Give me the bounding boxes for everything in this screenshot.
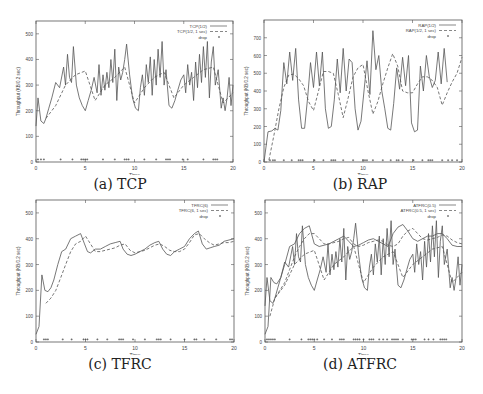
caption-atfrc: (d) ATFRC (240, 356, 480, 372)
series-line (265, 221, 462, 306)
y-axis-label: Throughput (KB/0.2 sec) (244, 66, 249, 116)
y-tick-label: 200 (253, 125, 261, 130)
y-tick-label: 500 (25, 211, 33, 216)
legend-label: ATFRC(0.5) (413, 203, 436, 208)
series-line (36, 42, 233, 127)
plot-frame (36, 200, 234, 342)
legend-label: drop (198, 35, 207, 40)
x-tick-label: 5 (84, 345, 87, 351)
legend-label: TFRC(6) (191, 203, 208, 208)
chart-panel-tfrc: 010020030040050005101520TimeThroughput (… (0, 180, 240, 394)
x-tick-label: 20 (459, 165, 465, 171)
x-tick-label: 15 (181, 165, 187, 171)
y-tick-label: 0 (30, 340, 33, 345)
y-tick-label: 300 (25, 83, 33, 88)
y-tick-label: 100 (25, 134, 33, 139)
series-line (269, 54, 462, 161)
y-tick-label: 100 (253, 142, 261, 147)
y-tick-label: 200 (25, 109, 33, 114)
x-tick-label: 10 (132, 345, 138, 351)
series-line (46, 234, 234, 304)
x-tick-label: 20 (231, 345, 237, 351)
x-axis-label: Time (129, 172, 140, 175)
caption-tfrc: (c) TFRC (0, 356, 240, 372)
x-tick-label: 0 (35, 165, 38, 171)
legend-label: RAP(1/2) (418, 23, 436, 28)
x-tick-label: 5 (312, 165, 315, 171)
legend-label: drop (427, 34, 436, 39)
y-tick-label: 200 (254, 288, 262, 293)
chart-panel-atfrc: 010020030040050005101520TimeThroughput (… (240, 180, 483, 394)
chart-panel-tcp: 010020030040050005101520TimeThroughput (… (0, 0, 240, 197)
series-line (264, 31, 447, 162)
legend-label: TCP(1/2) (190, 24, 208, 29)
x-tick-label: 15 (410, 165, 416, 171)
series-line (36, 231, 234, 334)
x-tick-label: 10 (132, 165, 138, 171)
legend-label: RAP(1/2, 1 sec) (406, 28, 437, 33)
chart-atfrc: 010020030040050005101520TimeThroughput (… (240, 180, 483, 355)
plot-frame (264, 20, 462, 162)
x-tick-label: 10 (361, 345, 367, 351)
legend-label: ATFRC(0.5, 1 sec) (401, 208, 437, 213)
y-tick-label: 500 (25, 32, 33, 37)
chart-tfrc: 010020030040050005101520TimeThroughput (… (0, 180, 240, 355)
plot-frame (265, 200, 462, 342)
chart-rap: 010020030040050060070005101520TimeThroug… (240, 0, 483, 175)
y-tick-label: 500 (254, 211, 262, 216)
x-tick-label: 0 (264, 345, 267, 351)
x-tick-label: 5 (313, 345, 316, 351)
y-tick-label: 300 (254, 263, 262, 268)
x-axis-label: Time (358, 352, 369, 355)
y-tick-label: 400 (25, 237, 33, 242)
y-tick-label: 0 (258, 160, 261, 165)
x-tick-label: 5 (84, 165, 87, 171)
y-tick-label: 0 (259, 340, 262, 345)
legend-label: drop (199, 214, 208, 219)
legend-label: drop (427, 214, 436, 219)
x-tick-label: 0 (263, 165, 266, 171)
x-tick-label: 10 (360, 165, 366, 171)
y-tick-label: 600 (253, 54, 261, 59)
y-tick-label: 400 (25, 57, 33, 62)
y-tick-label: 500 (253, 71, 261, 76)
chart-panel-rap: 010020030040050060070005101520TimeThroug… (240, 0, 483, 197)
y-tick-label: 100 (254, 314, 262, 319)
x-tick-label: 20 (459, 345, 465, 351)
x-axis-label: Time (130, 352, 141, 355)
x-tick-label: 15 (410, 345, 416, 351)
y-tick-label: 300 (25, 263, 33, 268)
y-tick-label: 100 (25, 314, 33, 319)
y-tick-label: 300 (253, 107, 261, 112)
y-tick-label: 700 (253, 36, 261, 41)
chart-tcp: 010020030040050005101520TimeThroughput (… (0, 0, 240, 175)
legend-label: TCP(1/2, 1 sec) (177, 29, 208, 34)
x-tick-label: 20 (230, 165, 236, 171)
series-line (265, 225, 462, 335)
y-axis-label: Throughput (KB/0.2 sec) (245, 246, 250, 296)
y-tick-label: 400 (254, 237, 262, 242)
y-axis-label: Throughput (KB/0.2 sec) (16, 246, 21, 296)
x-tick-label: 0 (35, 345, 38, 351)
legend-label: TFRC(6, 1 sec) (179, 208, 209, 213)
x-tick-label: 15 (182, 345, 188, 351)
y-tick-label: 400 (253, 89, 261, 94)
x-axis-label: Time (358, 172, 369, 175)
y-tick-label: 200 (25, 288, 33, 293)
y-axis-label: Throughput (KB/0.2 sec) (16, 66, 21, 116)
plot-frame (36, 21, 233, 162)
y-tick-label: 0 (30, 160, 33, 165)
